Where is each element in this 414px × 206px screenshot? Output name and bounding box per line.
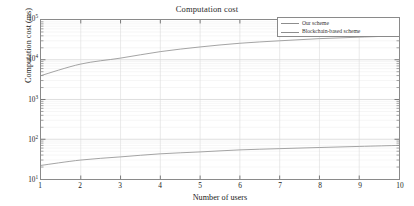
legend-line-sample-icon <box>281 32 299 33</box>
x-tick-label: 2 <box>78 181 82 190</box>
series-layer <box>41 20 399 179</box>
y-axis-label: Computation cost (ms) <box>24 0 33 126</box>
x-tick-label: 8 <box>318 181 322 190</box>
x-tick-label: 5 <box>198 181 202 190</box>
x-tick-label: 1 <box>38 181 42 190</box>
x-tick-label: 10 <box>396 181 403 190</box>
x-tick-label: 7 <box>278 181 282 190</box>
legend-box: Our scheme Blockchain-based scheme <box>277 17 400 37</box>
legend-label: Blockchain-based scheme <box>302 29 360 35</box>
x-tick-label: 9 <box>358 181 362 190</box>
y-tick-label: 102 <box>18 136 38 144</box>
x-axis-label: Number of users <box>40 193 400 202</box>
x-tick-label: 6 <box>238 181 242 190</box>
plot-area <box>40 19 400 180</box>
chart-title: Computation cost <box>0 4 414 14</box>
figure-canvas: Computation cost 12345678910 10110210310… <box>0 0 414 206</box>
x-tick-label: 3 <box>118 181 122 190</box>
series-line-1 <box>41 36 399 76</box>
series-line-0 <box>41 145 399 165</box>
legend-item-blockchain-based-scheme[interactable]: Blockchain-based scheme <box>281 28 396 37</box>
legend-item-our-scheme[interactable]: Our scheme <box>281 20 396 29</box>
legend-label: Our scheme <box>302 21 329 27</box>
y-tick-label: 101 <box>18 176 38 184</box>
x-tick-label: 4 <box>158 181 162 190</box>
legend-line-sample-icon <box>281 23 299 24</box>
